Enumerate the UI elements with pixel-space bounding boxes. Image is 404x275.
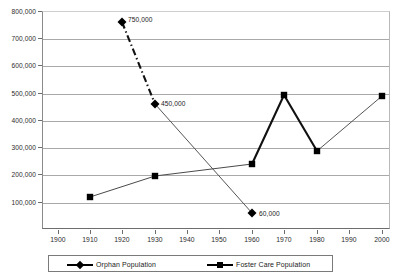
foster-line-peak <box>252 95 317 164</box>
square-marker-icon <box>207 260 233 269</box>
series-layer <box>0 0 404 275</box>
legend-item-foster-care-population[interactable]: Foster Care Population <box>207 256 310 273</box>
legend-label-orphan-population: Orphan Population <box>96 261 156 268</box>
chart-container: 800,000 700,000 600,000 500,000 400,000 … <box>0 0 404 275</box>
data-label-orphan-1930: 450,000 <box>161 100 186 107</box>
foster-marker-1930 <box>152 173 158 179</box>
foster-marker-1960 <box>249 161 255 167</box>
data-label-orphan-1920: 750,000 <box>128 16 153 23</box>
chart-legend: Orphan Population Foster Care Population <box>48 255 333 272</box>
foster-marker-2000 <box>379 93 385 99</box>
foster-marker-1970 <box>281 92 287 98</box>
foster-line-late <box>317 96 382 151</box>
legend-item-orphan-population[interactable]: Orphan Population <box>67 256 156 273</box>
orphan-line-segment-dashed <box>122 22 155 104</box>
legend-label-foster-care-population: Foster Care Population <box>236 261 310 268</box>
foster-marker-1910 <box>87 194 93 200</box>
data-label-orphan-1960: 60,000 <box>259 210 280 217</box>
foster-line-early <box>90 164 252 197</box>
diamond-marker-icon <box>67 260 93 269</box>
orphan-line-segment-solid <box>155 104 252 213</box>
foster-marker-1980 <box>314 148 320 154</box>
orphan-marker-1920 <box>117 17 126 26</box>
